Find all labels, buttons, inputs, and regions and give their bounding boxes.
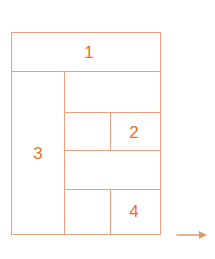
diagram-canvas: 1 3 2 4: [0, 0, 215, 259]
region-label-1: 1: [84, 44, 93, 61]
region-label-4: 4: [129, 203, 138, 220]
arrow-right-icon: [176, 228, 208, 242]
divider-h-below-region-1: [11, 71, 161, 72]
region-label-2: 2: [129, 124, 138, 141]
divider-h-below-region-2: [64, 150, 161, 151]
divider-v-region-4-left: [110, 189, 111, 235]
direction-arrow: [176, 228, 208, 242]
divider-h-above-region-2: [64, 112, 161, 113]
divider-v-region-2-left: [110, 112, 111, 150]
divider-v-region-3-right: [64, 71, 65, 235]
region-label-3: 3: [33, 145, 42, 162]
divider-h-above-region-4: [64, 189, 161, 190]
